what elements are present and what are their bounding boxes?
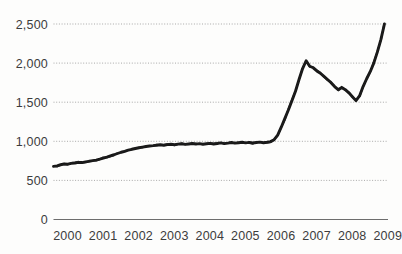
y-tick-label-1500: 1,500 xyxy=(16,96,48,110)
x-tick-labels-group: 2000200120022003200420052006200720082009 xyxy=(53,229,402,243)
chart-page: 05001,0001,5002,0002,500 200020012002200… xyxy=(0,0,402,254)
x-tick-label-2007: 2007 xyxy=(302,229,331,243)
x-tick-label-2004: 2004 xyxy=(196,229,225,243)
x-tick-label-2000: 2000 xyxy=(53,229,82,243)
x-tick-label-2008: 2008 xyxy=(338,229,367,243)
y-tick-label-1000: 1,000 xyxy=(16,135,48,149)
x-tick-label-2001: 2001 xyxy=(89,229,118,243)
data-series-group xyxy=(54,24,385,167)
y-tick-label-0: 0 xyxy=(41,213,48,227)
x-tick-label-2006: 2006 xyxy=(267,229,296,243)
x-tick-label-2009: 2009 xyxy=(373,229,402,243)
y-tick-label-2500: 2,500 xyxy=(16,18,48,32)
x-tick-label-2005: 2005 xyxy=(231,229,260,243)
data-line-value xyxy=(54,24,385,166)
y-tick-label-500: 500 xyxy=(27,174,48,188)
x-tick-label-2003: 2003 xyxy=(160,229,189,243)
y-tick-label-2000: 2,000 xyxy=(16,57,48,71)
y-tick-labels-group: 05001,0001,5002,0002,500 xyxy=(16,18,48,228)
x-tick-label-2002: 2002 xyxy=(124,229,153,243)
line-chart: 05001,0001,5002,0002,500 200020012002200… xyxy=(0,0,402,254)
data-line-texture xyxy=(54,24,384,167)
